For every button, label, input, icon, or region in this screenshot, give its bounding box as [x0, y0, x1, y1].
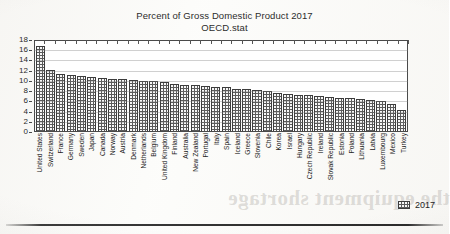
- x-axis-label-slot: United States: [34, 133, 44, 193]
- y-axis-tick-label: 16: [19, 46, 28, 54]
- y-axis-tick-mark: [29, 71, 32, 72]
- x-axis-top-tick: [107, 40, 108, 44]
- x-axis-top-tick: [263, 40, 264, 44]
- bar: [87, 77, 96, 132]
- y-axis-tick-mark: [29, 101, 32, 102]
- x-axis-top-tick: [398, 40, 399, 44]
- x-axis-top-tick: [408, 40, 409, 44]
- x-axis-label-slot: New Zealand: [190, 133, 200, 193]
- x-axis-label-slot: Sweden: [76, 133, 86, 193]
- bar: [345, 98, 354, 132]
- bar-series-2017: [35, 41, 407, 131]
- bar: [118, 79, 127, 131]
- bar: [211, 87, 220, 132]
- x-axis-top-tick: [55, 40, 56, 44]
- bar: [232, 89, 241, 132]
- x-axis-tick-label: Ireland: [316, 133, 323, 153]
- y-axis-tick-label: 14: [19, 56, 28, 64]
- bar: [139, 81, 148, 132]
- x-axis-label-slot: Portugal: [200, 133, 210, 193]
- x-axis-tick-label: Slovenia: [254, 133, 261, 158]
- x-axis-tick-label: Lithuania: [358, 133, 365, 160]
- bar: [98, 78, 107, 131]
- y-axis-tick-label: 0: [24, 128, 28, 136]
- x-axis-label-slot: Korea: [273, 133, 283, 193]
- chart-title-block: Percent of Gross Domestic Product 2017 O…: [0, 10, 449, 34]
- x-axis-tick-label: Netherlands: [140, 133, 147, 169]
- x-axis-label-slot: Finland: [169, 133, 179, 193]
- x-axis-label-slot: Denmark: [128, 133, 138, 193]
- x-axis-label-slot: Iceland: [231, 133, 241, 193]
- x-axis-top-tick: [221, 40, 222, 44]
- gridline: [34, 60, 408, 61]
- x-axis-label-slot: Lithuania: [356, 133, 366, 193]
- x-axis-top-tick: [366, 40, 367, 44]
- x-axis-top-tick: [76, 40, 77, 44]
- x-axis-tick-label: France: [56, 133, 63, 154]
- bar: [222, 87, 231, 132]
- x-axis-tick-label: Italy: [212, 133, 219, 145]
- x-axis-tick-label: Poland: [347, 133, 354, 154]
- x-axis-label-slot: Italy: [211, 133, 221, 193]
- x-axis-tick-label: Belgium: [150, 133, 157, 157]
- x-axis-label-slot: Austria: [117, 133, 127, 193]
- x-axis-label-slot: Greece: [242, 133, 252, 193]
- y-axis: 181614121086420: [0, 40, 32, 132]
- x-axis-tick-label: Korea: [275, 133, 282, 151]
- x-axis-tick-label: Sweden: [77, 133, 84, 157]
- x-axis-label-slot: Turkey: [398, 133, 408, 193]
- x-axis-tick-label: Greece: [244, 133, 251, 155]
- y-axis-tick-label: 6: [24, 97, 28, 105]
- x-axis-label-slot: Germany: [65, 133, 75, 193]
- x-axis-label-slot: Canada: [96, 133, 106, 193]
- scan-edge-line: [6, 224, 443, 226]
- x-axis-top-tick: [242, 40, 243, 44]
- x-axis-tick-label: Austria: [119, 133, 126, 154]
- bar: [108, 79, 117, 131]
- bar: [160, 82, 169, 132]
- y-axis-tick-mark: [29, 91, 32, 92]
- y-axis-tick-label: 8: [24, 87, 28, 95]
- x-axis-top-tick: [387, 40, 388, 44]
- x-axis-tick-label: United States: [36, 133, 43, 173]
- x-axis-label-slot: Spain: [221, 133, 231, 193]
- x-axis-top-tick: [44, 40, 45, 44]
- x-axis-top-tick: [179, 40, 180, 44]
- x-axis-top-tick: [346, 40, 347, 44]
- x-axis-top-tick: [86, 40, 87, 44]
- x-axis-tick-label: Israel: [285, 133, 292, 149]
- x-axis-top-tick: [325, 40, 326, 44]
- x-axis-label-slot: Norway: [107, 133, 117, 193]
- x-axis-label-slot: Mexico: [387, 133, 397, 193]
- x-axis-top-tick: [304, 40, 305, 44]
- x-axis-tick-label: Portugal: [202, 133, 209, 158]
- chart-legend: 2017: [398, 200, 435, 210]
- x-axis-tick-label: Germany: [67, 133, 74, 160]
- x-axis-label-slot: Slovenia: [252, 133, 262, 193]
- gridline: [34, 91, 408, 92]
- x-axis-tick-label: Denmark: [129, 133, 136, 160]
- bar: [387, 104, 396, 132]
- x-axis-tick-label: Switzerland: [46, 133, 53, 167]
- gridline: [34, 71, 408, 72]
- x-axis-tick-label: Australia: [181, 133, 188, 159]
- y-axis-tick-mark: [29, 132, 32, 133]
- x-axis-top-tick: [148, 40, 149, 44]
- y-axis-tick-mark: [29, 112, 32, 113]
- x-axis-tick-label: Estonia: [337, 133, 344, 155]
- x-axis-top-tick: [283, 40, 284, 44]
- x-axis-tick-label: Turkey: [399, 133, 406, 153]
- gridline: [34, 122, 408, 123]
- x-axis-label-slot: United Kingdom: [159, 133, 169, 193]
- x-axis-label-slot: Latvia: [367, 133, 377, 193]
- bar: [201, 86, 210, 131]
- x-axis-tick-label: New Zealand: [192, 133, 199, 172]
- x-axis-label-slot: Estonia: [335, 133, 345, 193]
- x-axis-label-slot: Slovak Republic: [325, 133, 335, 193]
- x-axis-top-tick: [96, 40, 97, 44]
- x-axis-tick-label: Mexico: [389, 133, 396, 154]
- x-axis-tick-label: Slovak Republic: [327, 133, 334, 180]
- x-axis-tick-label: Spain: [223, 133, 230, 150]
- y-axis-tick-mark: [29, 81, 32, 82]
- legend-swatch-2017: [398, 201, 410, 209]
